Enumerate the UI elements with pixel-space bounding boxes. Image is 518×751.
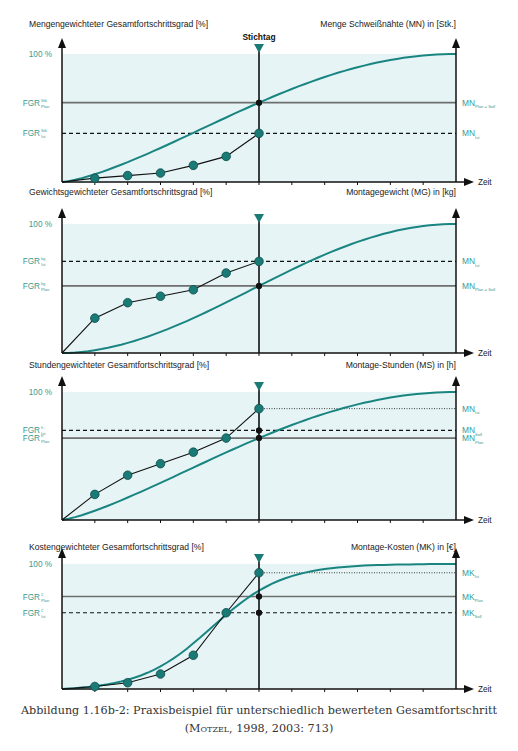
y-100-label: 100 % [29, 50, 52, 59]
stichtag-marker-icon [254, 382, 264, 391]
actual-data-point [123, 298, 132, 307]
actual-data-point [156, 670, 165, 679]
y-axis-right-title: Montage-Stunden (MS) in [h] [346, 360, 456, 370]
stichtag-marker-icon [254, 44, 264, 53]
progress-charts-figure: Mengengewichteter Gesamtfortschrittsgrad… [0, 0, 518, 700]
stichtag-value-dot [256, 283, 262, 289]
left-value-label-sub: Ist [41, 134, 46, 139]
actual-data-point [189, 161, 198, 170]
y-100-label: 100 % [29, 220, 52, 229]
actual-data-point [123, 678, 132, 687]
right-value-label: MKPlan [462, 592, 484, 604]
y-axis-left-arrow-icon [58, 208, 66, 218]
left-value-label-sup: h [41, 425, 44, 430]
y-axis-left-title: Kostengewichteter Gesamtfortschrittsgrad… [29, 542, 204, 552]
left-value-label-sup: kg [41, 281, 46, 286]
stichtag-value-dot [256, 100, 262, 106]
source-author: Motzel [189, 722, 229, 735]
actual-data-point [91, 490, 100, 499]
actual-data-point [255, 568, 264, 577]
x-axis-label: Zeit [478, 516, 492, 525]
chart-panel-2: Gewichtsgewichteter Gesamtfortschrittsgr… [23, 187, 496, 358]
figure-source: (Motzel, 1998, 2003: 713) [0, 722, 518, 735]
stichtag-marker-icon [254, 214, 264, 223]
left-value-label-sub: Ist [41, 614, 46, 619]
actual-data-point [156, 169, 165, 178]
left-value-label: FGR [23, 129, 40, 138]
y-axis-right-title: Menge Schweißnähte (MN) in [Stk.] [320, 19, 456, 29]
chart-panel-4: Kostengewichteter Gesamtfortschrittsgrad… [23, 542, 493, 694]
left-value-label: FGR [23, 99, 40, 108]
y-axis-left-arrow-icon [58, 38, 66, 48]
left-value-label: FGR [23, 434, 40, 443]
actual-data-point [156, 459, 165, 468]
actual-data-point [222, 608, 231, 617]
right-value-label: MNIst [462, 256, 480, 268]
x-axis-label: Zeit [478, 178, 492, 187]
actual-data-point [255, 257, 264, 266]
y-100-label: 100 % [29, 560, 52, 569]
actual-data-point [189, 448, 198, 457]
actual-data-point [222, 434, 231, 443]
y-axis-right-title: Montage-Kosten (MK) in [€] [351, 542, 456, 552]
left-value-label-sup: Stk [41, 98, 48, 103]
left-value-label-sup: kg [41, 256, 46, 261]
stichtag-value-dot [256, 435, 262, 441]
x-axis-arrow-icon [464, 178, 474, 186]
y-axis-left-title: Stundengewichteter Gesamtfortschrittsgra… [29, 360, 209, 370]
right-value-label: MNPlan = Soll [462, 281, 495, 293]
actual-data-point [91, 682, 100, 691]
y-axis-right-arrow-icon [452, 208, 460, 218]
y-axis-left-title: Mengengewichteter Gesamtfortschrittsgrad… [29, 19, 208, 29]
left-value-label-sup: € [41, 608, 44, 613]
actual-data-point [189, 285, 198, 294]
actual-data-point [91, 174, 100, 183]
actual-data-point [255, 129, 264, 138]
left-value-label-sub: Plan [41, 439, 50, 444]
y-100-label: 100 % [29, 388, 52, 397]
actual-data-point [123, 471, 132, 480]
actual-data-point [91, 314, 100, 323]
actual-data-point [222, 152, 231, 161]
actual-data-point [255, 404, 264, 413]
left-value-label-sub: Ist [41, 262, 46, 267]
x-axis-label: Zeit [478, 685, 492, 694]
left-value-label: FGR [23, 282, 40, 291]
x-axis-label: Zeit [478, 349, 492, 358]
x-axis-arrow-icon [464, 685, 474, 693]
left-value-label-sup: Stk [41, 128, 48, 133]
actual-data-point [123, 171, 132, 180]
stichtag-label: Stichtag [242, 32, 275, 42]
right-value-label: MNIst [462, 404, 480, 416]
stichtag-value-dot [256, 427, 262, 433]
figure-caption: Abbildung 1.16b-2: Praxisbeispiel für un… [0, 704, 518, 717]
x-axis-arrow-icon [464, 349, 474, 357]
y-axis-right-arrow-icon [452, 376, 460, 386]
actual-data-point [222, 269, 231, 278]
left-value-label: FGR [23, 609, 40, 618]
right-value-label: MNPlan = Soll [462, 98, 495, 110]
actual-data-point [156, 292, 165, 301]
right-value-label: MKSoll [462, 608, 482, 620]
left-value-label-sup: € [41, 592, 44, 597]
y-axis-left-arrow-icon [58, 376, 66, 386]
actual-data-point [189, 651, 198, 660]
stichtag-marker-icon [254, 554, 264, 563]
left-value-label-sub: Plan [41, 598, 50, 603]
x-axis-arrow-icon [464, 516, 474, 524]
chart-panel-3: Stundengewichteter Gesamtfortschrittsgra… [23, 360, 493, 525]
left-value-label-sub: Plan [41, 287, 50, 292]
right-value-label: MKIst [462, 568, 480, 580]
left-value-label: FGR [23, 257, 40, 266]
y-axis-right-arrow-icon [452, 38, 460, 48]
stichtag-value-dot [256, 610, 262, 616]
chart-panel-1: Mengengewichteter Gesamtfortschrittsgrad… [23, 19, 496, 187]
right-value-label: MNIst [462, 128, 480, 140]
y-axis-left-title: Gewichtsgewichteter Gesamtfortschrittsgr… [29, 187, 212, 197]
y-axis-right-title: Montagegewicht (MG) in [kg] [346, 187, 456, 197]
left-value-label: FGR [23, 593, 40, 602]
stichtag-value-dot [256, 594, 262, 600]
left-value-label-sub: Plan [41, 104, 50, 109]
